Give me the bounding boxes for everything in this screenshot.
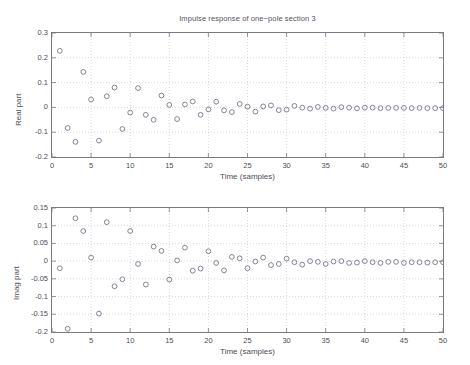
data-point (151, 244, 156, 249)
data-point (276, 108, 281, 113)
data-point (402, 105, 407, 110)
plot-area-real (51, 32, 444, 158)
data-point (261, 255, 266, 260)
data-point (386, 259, 391, 264)
data-point (81, 70, 86, 75)
x-tick-label: 35 (316, 336, 336, 345)
x-tick-label: 0 (42, 161, 62, 170)
data-point (57, 266, 62, 271)
x-tick-label: 40 (355, 161, 375, 170)
data-point (378, 106, 383, 111)
x-tick-label: 5 (81, 336, 101, 345)
data-point (300, 105, 305, 110)
plot-svg-real (52, 33, 443, 157)
y-tick-label: 0 (26, 256, 48, 265)
data-point (120, 127, 125, 132)
data-point (229, 254, 234, 259)
y-tick-label: -0.15 (26, 309, 48, 318)
data-point (300, 262, 305, 267)
data-point (441, 106, 443, 111)
data-point (159, 93, 164, 98)
data-point (175, 117, 180, 122)
y-tick-label: -0.05 (26, 274, 48, 283)
data-point (97, 311, 102, 316)
y-tick-label: 0.1 (26, 221, 48, 230)
y-tick-label: -0.1 (26, 292, 48, 301)
panel-imag-part: -0.2-0.15-0.1-0.0500.050.10.15 051015202… (0, 185, 470, 365)
data-point (269, 103, 274, 108)
x-tick-label: 5 (81, 161, 101, 170)
y-tick-label: 0.05 (26, 238, 48, 247)
y-tick-label: 0.1 (26, 78, 48, 87)
x-tick-label: 50 (433, 336, 453, 345)
data-point (315, 259, 320, 264)
data-point (73, 139, 78, 144)
data-point (222, 268, 227, 273)
panel-real-part: Impulse response of one−pole section 3 -… (0, 0, 470, 185)
x-tick-label: 20 (198, 161, 218, 170)
data-point (331, 259, 336, 264)
x-tick-label: 40 (355, 336, 375, 345)
x-tick-label: 25 (238, 161, 258, 170)
data-point (370, 260, 375, 265)
data-point (214, 99, 219, 104)
data-point (386, 105, 391, 110)
data-point (355, 260, 360, 265)
data-point (417, 260, 422, 265)
y-tick-label: 0.3 (26, 28, 48, 37)
data-point (151, 117, 156, 122)
data-point (97, 138, 102, 143)
data-point (229, 110, 234, 115)
data-point (417, 105, 422, 110)
x-axis-label-imag: Time (samples) (51, 347, 444, 356)
y-tick-label: 0 (26, 102, 48, 111)
data-point (292, 104, 297, 109)
data-point (292, 260, 297, 265)
data-point (112, 284, 117, 289)
chart-title: Impulse response of one−pole section 3 (51, 14, 444, 23)
data-point (214, 261, 219, 266)
data-point (323, 105, 328, 110)
data-point (175, 258, 180, 263)
data-point (253, 259, 258, 264)
data-point (112, 85, 117, 90)
data-point (222, 108, 227, 113)
x-tick-label: 45 (394, 336, 414, 345)
data-point (441, 260, 443, 265)
x-tick-label: 45 (394, 161, 414, 170)
data-point (198, 266, 203, 271)
data-point (331, 106, 336, 111)
data-point (198, 112, 203, 117)
data-point (104, 220, 109, 225)
data-point (190, 268, 195, 273)
plot-svg-imag (52, 208, 443, 332)
plot-area-imag (51, 207, 444, 333)
x-tick-label: 15 (159, 336, 179, 345)
y-axis-label-imag: Imag part (12, 266, 21, 300)
data-point (237, 102, 242, 107)
data-point (104, 94, 109, 99)
y-tick-label: -0.2 (26, 152, 48, 161)
data-point (206, 249, 211, 254)
data-point (136, 262, 141, 267)
data-point (355, 106, 360, 111)
data-point (237, 256, 242, 261)
x-tick-label: 50 (433, 161, 453, 170)
data-point (120, 277, 125, 282)
data-point (143, 282, 148, 287)
data-point (65, 326, 70, 331)
x-tick-label: 20 (198, 336, 218, 345)
x-tick-label: 25 (238, 336, 258, 345)
x-tick-label: 15 (159, 161, 179, 170)
x-axis-label-real: Time (samples) (51, 172, 444, 181)
data-point (57, 48, 62, 53)
data-point (65, 126, 70, 131)
data-point (253, 109, 258, 114)
data-point (81, 229, 86, 234)
y-tick-label: -0.1 (26, 127, 48, 136)
y-axis-label-real: Real part (14, 94, 23, 126)
data-point (167, 103, 172, 108)
data-point (143, 112, 148, 117)
x-tick-label: 10 (120, 336, 140, 345)
data-point (308, 106, 313, 111)
